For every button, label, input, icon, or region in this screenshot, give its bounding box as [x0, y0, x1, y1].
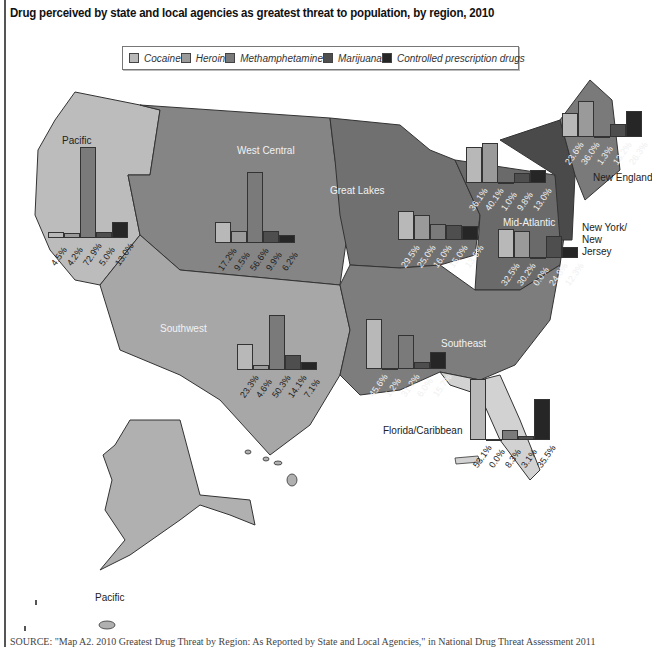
bar-controlled-prescription-drugs	[301, 362, 317, 370]
bar-marijuana	[414, 362, 430, 369]
bar-marijuana	[610, 124, 626, 137]
bar-controlled-prescription-drugs	[534, 399, 550, 440]
bar-marijuana	[285, 355, 301, 371]
bar-cocaine	[366, 319, 382, 369]
region-hawaii	[245, 450, 297, 486]
region-alaska	[100, 420, 255, 570]
bar-methamphetamine	[430, 224, 446, 240]
bar-cocaine	[470, 379, 486, 440]
bar-marijuana	[96, 232, 112, 238]
bar-marijuana	[546, 236, 562, 258]
bar-controlled-prescription-drugs	[279, 235, 295, 243]
bar-controlled-prescription-drugs	[112, 222, 128, 238]
bar-cocaine	[466, 147, 482, 183]
bar-cocaine	[215, 222, 231, 244]
bar-heroin	[482, 143, 498, 183]
bar-methamphetamine	[269, 315, 285, 370]
bar-methamphetamine	[530, 257, 546, 259]
region-label-new-england: New England	[593, 172, 652, 183]
region-label-southwest: Southwest	[160, 323, 207, 334]
bar-marijuana	[263, 231, 279, 243]
region-label-ny-nj: New York/ New Jersey	[582, 222, 632, 258]
region-label-pacific-islands: Pacific	[95, 592, 124, 603]
bar-heroin	[253, 365, 269, 370]
bar-marijuana	[518, 436, 534, 440]
region-label-west-central: West Central	[237, 145, 295, 156]
bar-cocaine	[237, 344, 253, 370]
bar-controlled-prescription-drugs	[430, 352, 446, 369]
bar-controlled-prescription-drugs	[562, 247, 578, 258]
region-label-southeast: Southeast	[441, 338, 486, 349]
bar-methamphetamine	[498, 182, 514, 184]
bar-methamphetamine	[247, 172, 263, 243]
region-label-pacific: Pacific	[62, 135, 91, 146]
bar-cocaine	[48, 232, 64, 238]
region-label-great-lakes: Great Lakes	[330, 185, 384, 196]
bar-controlled-prescription-drugs	[462, 226, 478, 240]
bar-heroin	[578, 101, 594, 137]
source-note: SOURCE: "Map A2. 2010 Greatest Drug Thre…	[10, 636, 595, 647]
bar-heroin	[382, 368, 398, 370]
bar-cocaine	[498, 229, 514, 258]
bar-methamphetamine	[594, 136, 610, 138]
bar-methamphetamine	[502, 430, 518, 440]
bar-marijuana	[514, 173, 530, 183]
bar-methamphetamine	[80, 147, 96, 238]
bar-methamphetamine	[398, 335, 414, 369]
bar-heroin	[486, 439, 502, 441]
bar-heroin	[514, 231, 530, 258]
region-label-florida-caribbean: Florida/Caribbean	[383, 425, 463, 436]
bar-controlled-prescription-drugs	[530, 170, 546, 183]
bar-heroin	[414, 215, 430, 240]
bar-cocaine	[562, 113, 578, 137]
bar-cocaine	[398, 211, 414, 241]
bar-heroin	[64, 233, 80, 238]
bar-controlled-prescription-drugs	[626, 111, 642, 137]
region-pacific-islands	[24, 600, 115, 631]
bar-marijuana	[446, 225, 462, 240]
bar-heroin	[231, 231, 247, 243]
region-label-mid-atlantic: Mid-Atlantic	[503, 217, 555, 228]
